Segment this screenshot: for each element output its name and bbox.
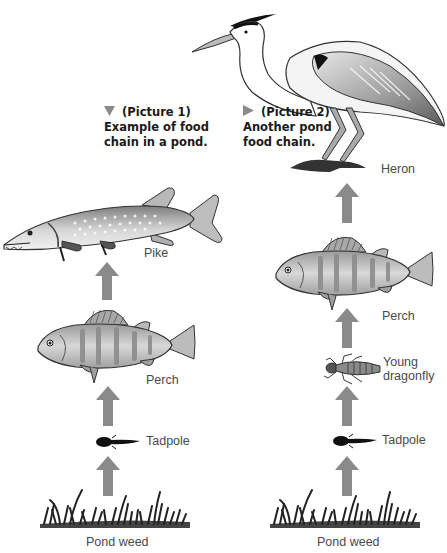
tadpole-icon [96, 435, 140, 449]
tadpole-label: Tadpole [382, 433, 426, 447]
pond-weed-label: Pond weed [86, 535, 149, 549]
pond-weed-label: Pond weed [317, 535, 380, 549]
picture-2-caption: (Picture 2) Another pond food chain. [243, 105, 332, 150]
pike-label: Pike [144, 246, 168, 260]
arrow-up-icon [335, 308, 359, 348]
picture-2-caption-line2: food chain. [243, 135, 332, 150]
pike-fish-icon [0, 183, 230, 263]
young-dragonfly-label: Young dragonfly [383, 355, 434, 383]
tadpole-label: Tadpole [146, 434, 190, 448]
picture-2-caption-line1: Another pond [243, 120, 332, 135]
arrow-up-icon [335, 183, 359, 223]
down-triangle-icon [104, 105, 115, 120]
tadpole-icon [333, 434, 377, 448]
perch-label: Perch [382, 309, 415, 323]
young-dragonfly-label-line1: Young [383, 355, 434, 369]
young-dragonfly-label-line2: dragonfly [383, 369, 434, 383]
arrow-up-icon [96, 386, 120, 426]
picture-2-title: (Picture 2) [261, 105, 330, 119]
arrow-up-icon [95, 262, 119, 300]
arrow-up-icon [335, 386, 359, 426]
heron-label: Heron [381, 162, 415, 176]
pond-weed-icon [40, 486, 190, 528]
picture-1-title: (Picture 1) [122, 105, 191, 119]
dragonfly-larva-icon [322, 352, 382, 386]
perch-fish-icon [274, 230, 434, 312]
heron-icon [190, 8, 447, 178]
right-triangle-icon [243, 105, 254, 120]
perch-label: Perch [146, 373, 179, 387]
pond-weed-icon [270, 486, 420, 528]
